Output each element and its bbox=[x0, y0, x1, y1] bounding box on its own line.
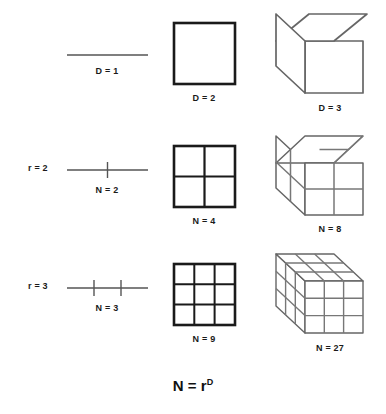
count-label-cube-r3: N = 27 bbox=[316, 343, 344, 353]
dimension-label-d2: D = 2 bbox=[193, 93, 216, 103]
cube-grid-r3 bbox=[276, 254, 363, 333]
scaling-dimension-figure: r = 2 r = 3 D = 1 D = 2 D = 3 N = 2 N = … bbox=[0, 0, 386, 414]
formula-n-equals-r-power-d: N = rD bbox=[173, 374, 213, 394]
line-segment-r2 bbox=[67, 162, 148, 178]
line-segment-r3 bbox=[67, 280, 148, 296]
cube-d3 bbox=[276, 14, 367, 93]
formula-base: N = r bbox=[173, 377, 207, 394]
row-label-r2: r = 2 bbox=[28, 163, 48, 173]
square-grid-r2 bbox=[174, 146, 235, 207]
count-label-line-r3: N = 3 bbox=[96, 303, 119, 313]
square-d2 bbox=[174, 23, 235, 84]
dimension-label-d3: D = 3 bbox=[319, 103, 342, 113]
count-label-square-r3: N = 9 bbox=[193, 334, 216, 344]
dimension-label-d1: D = 1 bbox=[96, 66, 119, 76]
row-label-r3: r = 3 bbox=[28, 281, 48, 291]
count-label-line-r2: N = 2 bbox=[96, 185, 119, 195]
cube-grid-r2 bbox=[276, 136, 363, 215]
square-grid-r3 bbox=[174, 264, 235, 325]
count-label-square-r2: N = 4 bbox=[193, 216, 216, 226]
formula-exponent: D bbox=[207, 377, 214, 387]
count-label-cube-r2: N = 8 bbox=[319, 224, 342, 234]
